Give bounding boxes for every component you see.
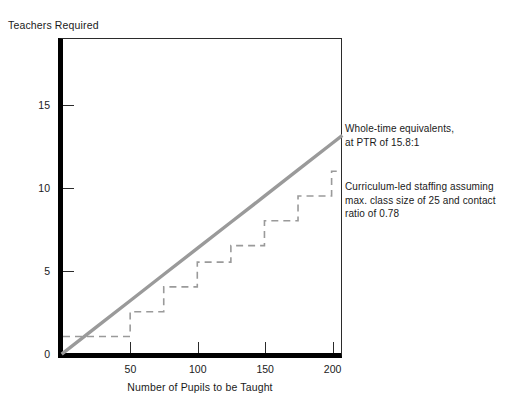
y-tick-label-5: 5 [20,265,50,277]
annotation-wte-line2: at PTR of 15.8:1 [345,136,525,150]
y-axis-title: Teachers Required [8,19,99,31]
annotation-whole-time-equivalents: Whole-time equivalents, at PTR of 15.8:1 [345,122,525,149]
x-tick-label-150: 150 [245,363,285,375]
annotation-curriculum-line1: Curriculum-led staffing assuming [345,180,525,194]
x-tick-200 [333,342,334,353]
annotation-curriculum-led-staffing: Curriculum-led staffing assuming max. cl… [345,180,525,221]
y-tick-15 [63,105,74,106]
plot-area [63,39,341,353]
y-tick-label-0: 0 [20,348,50,360]
x-axis-title: Number of Pupils to be Taught [58,381,342,393]
annotation-wte-line1: Whole-time equivalents, [345,122,525,136]
series-curriculum-led-step-line [63,171,341,336]
x-tick-label-200: 200 [313,363,353,375]
series-whole-time-equivalents-line [63,137,341,353]
plot-frame [58,38,342,358]
x-tick-label-50: 50 [110,363,150,375]
chart-svg [63,39,341,353]
y-tick-10 [63,188,74,189]
x-tick-50 [130,342,131,353]
y-tick-label-15: 15 [20,99,50,111]
y-tick-label-10: 10 [20,182,50,194]
x-tick-100 [198,342,199,353]
y-tick-5 [63,271,74,272]
annotation-curriculum-line2: max. class size of 25 and contact [345,194,525,208]
x-tick-label-100: 100 [178,363,218,375]
annotation-curriculum-line3: ratio of 0.78 [345,207,525,221]
x-tick-150 [265,342,266,353]
